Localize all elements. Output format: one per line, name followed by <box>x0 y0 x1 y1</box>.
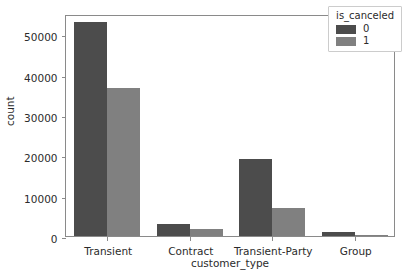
legend-label-0: 0 <box>363 24 369 34</box>
y-tick-label-40000: 40000 <box>24 72 57 83</box>
y-tick-50000: 50000 <box>62 36 67 37</box>
legend-entry-0[interactable]: 0 <box>336 24 394 34</box>
y-tick-10000: 10000 <box>62 198 67 199</box>
bar-transient-series-0 <box>74 22 107 236</box>
y-tick-40000: 40000 <box>62 77 67 78</box>
legend-entry-1[interactable]: 1 <box>336 36 394 46</box>
x-tick-transient-party: Transient-Party <box>272 236 273 241</box>
x-tick-label-transient: Transient <box>84 246 132 257</box>
legend: is_canceled 01 <box>328 6 402 52</box>
bar-contract-series-0 <box>157 224 190 237</box>
x-tick-label-contract: Contract <box>168 246 213 257</box>
y-tick-label-50000: 50000 <box>24 32 57 43</box>
y-tick-label-0: 0 <box>51 234 58 245</box>
x-tick-label-transient-party: Transient-Party <box>234 246 313 257</box>
x-tick-group: Group <box>355 236 356 241</box>
bar-group-series-1 <box>355 235 388 236</box>
bar-transient-party-series-1 <box>272 208 305 236</box>
bar-transient-series-1 <box>107 88 140 236</box>
legend-title: is_canceled <box>336 11 394 21</box>
x-axis-label: customer_type <box>65 258 395 269</box>
legend-swatch-icon-1 <box>336 37 356 46</box>
legend-label-1: 1 <box>363 36 369 46</box>
y-axis-label: count <box>5 96 16 126</box>
y-tick-30000: 30000 <box>62 117 67 118</box>
x-tick-transient: Transient <box>107 236 108 241</box>
bar-contract-series-1 <box>190 229 223 236</box>
y-tick-label-20000: 20000 <box>24 153 57 164</box>
bar-group-series-0 <box>322 232 355 236</box>
legend-swatch-icon-0 <box>336 25 356 34</box>
bar-transient-party-series-0 <box>239 159 272 237</box>
legend-entries: 01 <box>336 24 394 46</box>
y-tick-20000: 20000 <box>62 157 67 158</box>
bar-chart-figure: 01000020000300004000050000 TransientCont… <box>0 0 408 278</box>
y-tick-label-10000: 10000 <box>24 193 57 204</box>
x-tick-contract: Contract <box>190 236 191 241</box>
y-tick-0: 0 <box>62 238 67 239</box>
y-tick-label-30000: 30000 <box>24 113 57 124</box>
x-tick-label-group: Group <box>340 246 372 257</box>
